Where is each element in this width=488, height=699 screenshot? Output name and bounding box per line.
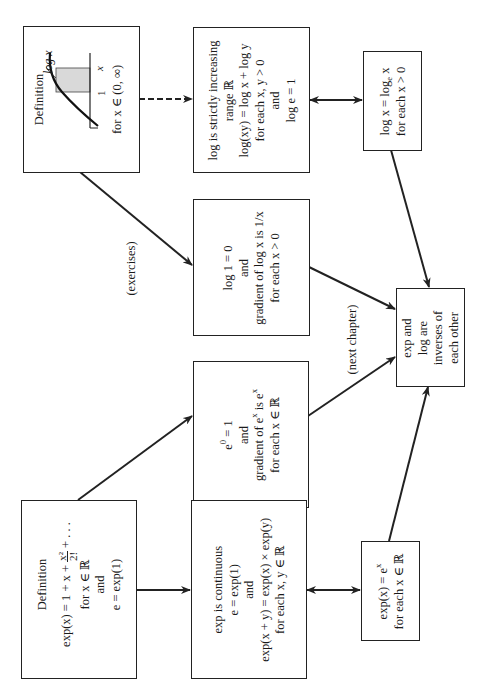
log-base-e-box: log x = loge x for each x > 0 [363, 51, 422, 151]
log-base-e-arg: x [377, 67, 391, 76]
edge-expdef-to-expzero [78, 416, 192, 500]
log-properties-line-4: for each x, y > 0 [252, 28, 268, 174]
exp-continuous-line-5: for each x, y ∈ ℝ [272, 500, 288, 679]
exp-continuous-line-2: e = exp(1) [226, 500, 242, 679]
exp-definition-line-5: e = exp(1) [108, 495, 124, 674]
edge-label-next-chapter: (next chapter) [345, 305, 360, 375]
gradient-of-e: gradient of e [251, 417, 265, 480]
exp-power-box: exp(x) = ex for each x ∈ ℝ [361, 541, 420, 641]
exp-zero-line-3: gradient of ex is ex [251, 361, 267, 508]
log-properties-box: log is strictly increasing range ℝ log(x… [193, 27, 310, 173]
log-base-e-line-2: for each x > 0 [393, 51, 409, 151]
exp-continuous-box: exp is continuous e = exp(1) and exp(x +… [191, 500, 307, 679]
exp-equals-e: exp(x) = e [375, 567, 389, 618]
log-one-gradient-box: log 1 = 0 and gradient of log x is 1/x f… [193, 199, 310, 336]
log-properties-line-5: and [267, 28, 283, 174]
exp-continuous-line-3: and [241, 500, 257, 679]
exp-definition-line-4: and [93, 495, 109, 674]
log-properties-line-6: log e = 1 [283, 28, 299, 174]
zero-exponent: 0 [217, 439, 227, 443]
exp-power-line-2: for each x ∈ ℝ [391, 541, 407, 641]
log-base-subscript: e [384, 76, 394, 80]
edge-logbasee-to-inverses [391, 150, 429, 287]
log-definition-domain: for x ∈ (0, ∞) [110, 27, 126, 172]
log-one-line-2: and [236, 199, 252, 336]
log-properties-line-3: log(xy) = log x + log y [236, 28, 252, 174]
edge-logone-to-inverses [309, 267, 395, 309]
x-exponent-2: x [248, 389, 258, 393]
exp-zero-gradient-box: e0 = 1 and gradient of ex is ex for each… [193, 361, 309, 508]
exp-series-ellipsis: + . . . [58, 522, 72, 551]
exp-zero-line-4: for each x ∈ ℝ [267, 361, 283, 508]
log-one-line-4: for each x > 0 [267, 199, 283, 336]
fraction-x2-over-2fact: x²2! [56, 551, 77, 562]
graph-label-log-x: log x [41, 50, 57, 74]
shaded-area [56, 68, 90, 92]
exp-definition-line-3: for x ∈ ℝ [77, 495, 93, 674]
exp-series-start: exp(x) = 1 + x + [58, 561, 72, 646]
log-properties-line-2: range ℝ [221, 28, 237, 174]
inverses-line-1: exp and [400, 288, 416, 387]
inverses-line-4: each other [446, 288, 462, 387]
exp-zero-line-2: and [236, 361, 252, 508]
axis-tick-1: 1 [94, 91, 110, 97]
exp-zero-line-1: e0 = 1 [220, 361, 236, 508]
equals-one: = 1 [220, 420, 234, 440]
inverses-box: exp and log are inverses of each other [396, 288, 465, 387]
exp-definition-formula: exp(x) = 1 + x + x²2! + . . . [56, 495, 77, 674]
inverses-line-2: log are [415, 288, 431, 387]
fraction-numerator: x² [56, 551, 67, 562]
log-base-e-text: log x = log [377, 80, 391, 135]
exp-definition-title: Definition [35, 495, 51, 674]
exp-definition-box: Definition exp(x) = 1 + x + x²2! + . . .… [21, 500, 137, 679]
fraction-denominator: 2! [67, 551, 77, 562]
axis-tick-x: x [92, 66, 108, 71]
x-exponent: x [248, 413, 258, 417]
log-one-line-3: gradient of log x is 1/x [252, 199, 268, 336]
inverses-line-3: inverses of [431, 288, 447, 387]
edge-exppower-to-inverses [389, 387, 428, 541]
log-definition-box: Definition log x 1 x for x ∈ (0, ∞) [23, 26, 140, 173]
exp-continuous-line-4: exp(x + y) = exp(x) × exp(y) [257, 500, 273, 679]
log-one-line-1: log 1 = 0 [221, 199, 237, 336]
is-e: is e [251, 393, 265, 413]
exp-continuous-line-1: exp is continuous [210, 500, 226, 679]
log-properties-line-1: log is strictly increasing [205, 28, 221, 174]
edge-label-exercises: (exercises) [124, 241, 139, 295]
log-base-e-line-1: log x = loge x [377, 51, 393, 151]
x-exponent: x [372, 563, 382, 567]
exp-power-line-1: exp(x) = ex [375, 541, 391, 641]
